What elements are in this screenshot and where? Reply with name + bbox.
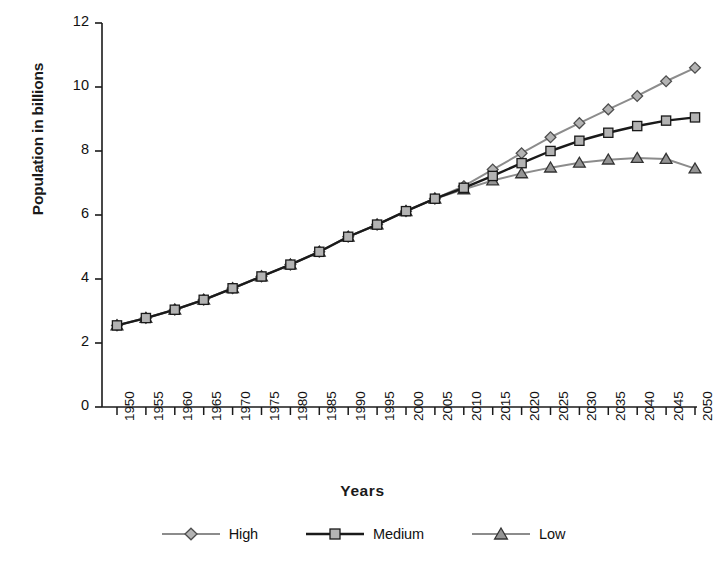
data-point-marker [401,207,410,216]
y-tick-label: 0 [55,397,89,413]
x-axis-title: Years [0,482,725,500]
x-tick-label: 2035 [613,391,628,421]
x-tick-label: 1970 [238,391,253,421]
y-tick-label: 2 [55,333,89,349]
data-point-marker [633,121,642,130]
data-point-marker [170,305,179,314]
y-tick-label: 4 [55,269,89,285]
x-tick-label: 1975 [267,391,282,421]
data-point-marker [459,183,468,192]
x-tick-label: 2010 [469,391,484,421]
x-tick-label: 1950 [122,391,137,421]
data-point-marker [690,62,701,73]
data-point-marker [661,76,672,87]
legend-marker-diamond-icon [160,525,222,543]
legend-label-high: High [229,526,258,542]
legend-item-high[interactable]: High [160,525,258,543]
x-tick-label: 2020 [527,391,542,421]
data-point-marker [603,104,614,115]
chart-legend: High Medium Low [0,525,725,543]
legend-marker-triangle-icon [470,525,532,543]
x-tick-label: 2045 [671,391,686,421]
x-tick-label: 1960 [180,391,195,421]
data-point-marker [575,136,584,145]
x-tick-label: 1985 [324,391,339,421]
y-tick-label: 12 [55,13,89,29]
data-series-layer [111,62,701,330]
data-point-marker [516,148,527,159]
data-point-marker [228,284,237,293]
series-medium [112,113,699,330]
legend-marker-square-icon [304,525,366,543]
legend-item-medium[interactable]: Medium [304,525,424,543]
data-point-marker [257,272,266,281]
legend-label-low: Low [539,526,565,542]
data-point-marker [141,313,150,322]
data-point-marker [574,118,585,129]
data-point-marker [286,260,295,269]
y-tick-label: 8 [55,141,89,157]
data-point-marker [344,232,353,241]
x-tick-label: 2025 [556,391,571,421]
x-tick-label: 2000 [411,391,426,421]
x-tick-label: 2015 [498,391,513,421]
data-point-marker [517,159,526,168]
data-point-marker [632,91,643,102]
data-point-marker [488,171,497,180]
x-tick-label: 2040 [642,391,657,421]
data-point-marker [430,194,439,203]
x-tick-label: 1980 [295,391,310,421]
data-point-marker [604,128,613,137]
data-point-marker [546,146,555,155]
data-point-marker [199,295,208,304]
x-tick-label: 1965 [209,391,224,421]
data-point-marker [373,220,382,229]
y-tick-label: 6 [55,205,89,221]
data-point-marker [662,116,671,125]
population-projection-chart: Population in billions 024681012 1950195… [0,0,725,567]
legend-label-medium: Medium [373,526,424,542]
x-tick-label: 1995 [382,391,397,421]
data-point-marker [315,247,324,256]
x-tick-label: 2050 [700,391,715,421]
x-tick-label: 2005 [440,391,455,421]
legend-item-low[interactable]: Low [470,525,565,543]
data-point-marker [112,321,121,330]
y-tick-label: 10 [55,77,89,93]
x-tick-label: 1990 [353,391,368,421]
data-point-marker [545,132,556,143]
x-tick-label: 2030 [584,391,599,421]
data-point-marker [690,113,699,122]
x-tick-label: 1955 [151,391,166,421]
series-high [112,62,701,330]
axis-ticks [95,23,695,415]
